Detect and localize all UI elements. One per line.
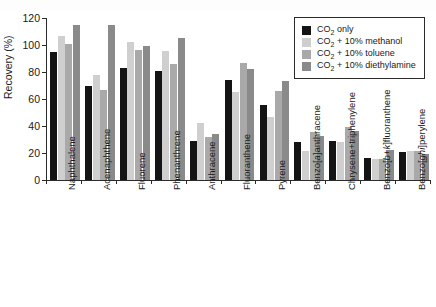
legend-swatch [302,26,311,35]
x-axis-tick [430,180,431,184]
y-axis-tick-label: 0 [34,175,40,186]
bar [399,152,406,180]
x-axis-category-label: Benzo[a]anthracene [312,105,322,190]
legend-item: CO2 + 10% diethylamine [302,60,416,72]
y-axis-label: Recovery (%) [2,35,14,99]
bar [155,71,162,180]
x-axis-category-label: Acenaphthene [102,129,112,190]
bar [407,151,414,180]
y-axis-tick-label: 80 [28,67,40,78]
bar [302,151,309,180]
y-axis-tick-label: 60 [28,94,40,105]
y-axis-tick-label: 120 [22,13,40,24]
bar-chart: Recovery (%) 020406080100120 CO2 onlyCO2… [0,0,436,307]
x-axis-category-label: Pyrene [277,160,287,190]
bar [364,158,371,180]
bar [260,105,267,180]
x-axis-tick [151,180,152,184]
x-axis-category-label: Naphthalene [67,136,77,190]
x-axis-category-label: Benzo[b+k]fluoranthene [382,89,392,190]
legend-label: CO2 + 10% toluene [317,49,395,60]
bar [197,123,204,180]
x-axis-category-label: Benzo[ghi]perylene [417,109,427,190]
x-axis-category-label: Phenanthrene [172,130,182,190]
x-axis-category-label: Fluoranthene [242,134,252,190]
bar [162,51,169,180]
legend-item: CO2 + 10% toluene [302,48,416,60]
bar [337,142,344,180]
x-axis-tick [290,180,291,184]
bar [50,52,57,180]
x-axis-tick [395,180,396,184]
y-axis-tick-label: 20 [28,148,40,159]
y-axis-tick [42,99,46,100]
bar [190,141,197,180]
legend: CO2 onlyCO2 + 10% methanolCO2 + 10% tolu… [294,17,425,79]
legend-swatch [302,38,311,47]
bar [232,92,239,180]
bar [372,159,379,180]
x-axis-tick [360,180,361,184]
bar [127,42,134,180]
bar [329,141,336,180]
y-axis-tick [42,72,46,73]
x-axis-tick [186,180,187,184]
bar [85,86,92,180]
bar [267,117,274,180]
y-axis-tick [42,45,46,46]
x-axis-tick [116,180,117,184]
x-axis-category-label: Anthracene [207,141,217,190]
y-axis-tick [42,18,46,19]
legend-item: CO2 + 10% methanol [302,36,416,48]
x-axis-category-label: Chrysene+triphenylene [347,92,357,190]
bar [120,68,127,180]
x-axis-tick [81,180,82,184]
legend-label: CO2 only [317,25,353,36]
y-axis-tick-label: 100 [22,40,40,51]
cropped-title-artifact [0,0,436,10]
bar [294,142,301,180]
bar-group [260,18,290,180]
bar [93,75,100,180]
legend-swatch [302,50,311,59]
bar [225,80,232,180]
bar [58,36,65,180]
y-axis-tick [42,126,46,127]
legend-label: CO2 + 10% diethylamine [317,61,416,72]
x-axis-tick [46,180,47,184]
x-axis-tick [255,180,256,184]
legend-swatch [302,62,311,71]
y-axis-tick-label: 40 [28,121,40,132]
y-axis-tick [42,153,46,154]
legend-item: CO2 only [302,24,416,36]
x-axis-category-label: Fluorene [137,153,147,191]
x-axis-tick [325,180,326,184]
legend-label: CO2 + 10% methanol [317,37,402,48]
x-axis-tick [221,180,222,184]
